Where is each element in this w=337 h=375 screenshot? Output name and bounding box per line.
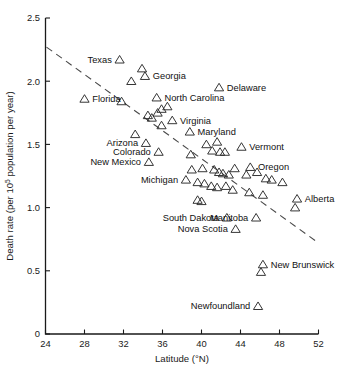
point-label: Georgia	[153, 71, 187, 81]
scatter-plot-figure: 00.51.01.52.02.52428323640444852 TexasGe…	[0, 0, 337, 375]
point-label: North Carolina	[164, 93, 225, 103]
x-tick-label: 36	[157, 338, 167, 349]
data-point-marker	[246, 163, 255, 171]
data-point-marker	[256, 268, 265, 276]
data-point-marker	[181, 176, 190, 184]
data-point-marker	[168, 116, 177, 124]
data-point-marker	[141, 139, 150, 147]
data-point-marker	[198, 164, 207, 172]
data-point-marker	[144, 158, 153, 166]
data-point-marker	[202, 140, 211, 148]
y-tick-label: 1.0	[27, 202, 40, 213]
data-point-marker	[278, 178, 287, 186]
data-point-marker	[291, 203, 300, 211]
point-label: Florida	[92, 94, 121, 104]
y-tick-label: 0	[35, 328, 40, 339]
data-point-marker	[292, 195, 301, 203]
point-label: New Mexico	[90, 157, 141, 167]
x-tick-label: 52	[313, 338, 323, 349]
y-tick-label: 0.5	[27, 265, 40, 276]
point-label: Maryland	[198, 127, 236, 137]
data-point-marker	[115, 55, 124, 63]
data-point-marker	[230, 164, 239, 172]
data-point-marker	[221, 182, 230, 190]
point-label: New Brunswick	[271, 260, 335, 270]
data-point-marker	[186, 150, 195, 158]
plot-canvas: 00.51.01.52.02.52428323640444852 TexasGe…	[0, 0, 337, 375]
data-point-marker	[140, 72, 149, 80]
data-point-marker	[127, 77, 136, 85]
data-point-marker	[213, 138, 222, 146]
y-tick-label: 2.5	[27, 12, 40, 23]
data-point-marker	[80, 95, 89, 103]
axes-group	[46, 18, 319, 334]
x-tick-label: 44	[235, 338, 245, 349]
y-tick-label: 1.5	[27, 139, 40, 150]
data-point-marker	[185, 128, 194, 136]
data-point-marker	[214, 83, 223, 91]
data-point-marker	[152, 93, 161, 101]
point-label: Virginia	[180, 116, 212, 126]
data-point-marker	[253, 302, 262, 310]
tick-marks-group	[46, 18, 319, 334]
y-axis-title: Death rate (per 105 population per year)	[4, 91, 15, 261]
x-axis-title: Latitude (°N)	[155, 353, 209, 364]
x-tick-label: 32	[118, 338, 128, 349]
data-point-marker	[242, 171, 251, 179]
point-labels-group: TexasGeorgiaDelawareFloridaNorth Carolin…	[88, 55, 336, 311]
data-point-marker	[131, 130, 140, 138]
x-tick-label: 40	[196, 338, 206, 349]
data-point-marker	[245, 188, 254, 196]
data-point-marker	[231, 225, 240, 233]
data-point-marker	[154, 148, 163, 156]
point-label: Delaware	[227, 83, 266, 93]
data-point-marker	[193, 196, 202, 204]
axis-lines	[46, 18, 319, 334]
data-point-marker	[187, 165, 196, 173]
x-tick-label: 24	[40, 338, 50, 349]
data-point-marker	[137, 64, 146, 72]
point-label: Manitoba	[210, 213, 249, 223]
x-tick-label: 28	[79, 338, 89, 349]
point-label: Newfoundland	[191, 301, 250, 311]
data-point-marker	[258, 191, 267, 199]
point-label: Vermont	[249, 142, 284, 152]
point-label: Nova Scotia	[178, 224, 229, 234]
point-label: Colorado	[113, 147, 151, 157]
data-point-marker	[220, 148, 229, 156]
point-label: Oregon	[258, 162, 289, 172]
data-point-marker	[252, 213, 261, 221]
point-label: Michigan	[141, 175, 178, 185]
data-point-marker	[237, 143, 246, 151]
y-tick-label: 2.0	[27, 76, 40, 87]
x-tick-label: 48	[274, 338, 284, 349]
data-point-marker	[258, 260, 267, 268]
data-point-marker	[210, 165, 219, 173]
point-label: Texas	[88, 55, 113, 65]
point-label: Alberta	[305, 194, 335, 204]
